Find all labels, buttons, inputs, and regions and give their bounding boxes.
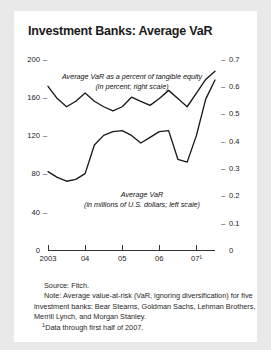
right-axis-ticks: 00.1–0.2–0.3–0.4–0.5–0.6–0.7– xyxy=(221,55,240,255)
right-axis-dash-0.6: – xyxy=(221,82,226,91)
left-axis-tick-80: 80 xyxy=(32,169,40,178)
right-axis-tick-0.7: 0.7 xyxy=(229,55,240,64)
percent-annotation-line2: (in percent; right scale) xyxy=(95,82,168,91)
left-axis-tick-120: 120 xyxy=(27,131,40,140)
usd-annotation-line1: Average VaR xyxy=(120,190,163,199)
x-axis-tick-label-4: 07¹ xyxy=(191,254,202,263)
right-axis-dash-0.5: – xyxy=(221,109,226,118)
footnote-text: Data through first half of 2007. xyxy=(45,324,143,333)
x-axis-ticks: 200304050607¹ xyxy=(40,245,203,263)
left-axis-dash-80: – xyxy=(43,169,48,178)
right-axis-dash-0.2: – xyxy=(221,191,226,200)
note-body: Note: Average value-at-risk (VaR, ignori… xyxy=(34,291,258,322)
note-footnote: 1Data through first half of 2007. xyxy=(34,322,258,334)
right-axis-tick-0.5: 0.5 xyxy=(229,109,240,118)
right-axis-tick-0.3: 0.3 xyxy=(229,164,240,173)
usd-annotation-line2: (in millions of U.S. dollars; left scale… xyxy=(84,200,200,209)
right-axis-dash-0.3: – xyxy=(221,164,226,173)
series-line-average-var-usd xyxy=(48,80,215,181)
left-axis-dash-200: – xyxy=(43,55,48,64)
left-axis-tick-160: 160 xyxy=(27,93,40,102)
right-axis-tick-0.1: 0.1 xyxy=(229,219,240,228)
chart-plot-area: 040–80–120–160–200– 00.1–0.2–0.3–0.4–0.5… xyxy=(14,37,257,265)
right-axis-dash-0.1: – xyxy=(221,219,226,228)
chart-svg: 040–80–120–160–200– 00.1–0.2–0.3–0.4–0.5… xyxy=(14,37,257,265)
chart-card: Investment Banks: Average VaR 040–80–120… xyxy=(14,11,257,342)
x-axis-tick-label-3: 06 xyxy=(155,254,163,263)
right-axis-tick-0.4: 0.4 xyxy=(229,137,240,146)
note-source: Source: Fitch. xyxy=(34,281,258,291)
right-axis-tick-0.6: 0.6 xyxy=(229,82,240,91)
left-axis-dash-160: – xyxy=(43,93,48,102)
right-axis-tick-0: 0 xyxy=(229,246,233,255)
chart-notes: Source: Fitch. Note: Average value-at-ri… xyxy=(34,281,258,334)
percent-annotation-line1: Average VaR as a percent of tangible equ… xyxy=(61,72,203,81)
page-title: Investment Banks: Average VaR xyxy=(28,24,212,38)
left-axis-tick-40: 40 xyxy=(32,208,40,217)
left-axis-dash-40: – xyxy=(43,208,48,217)
x-axis-tick-label-1: 04 xyxy=(81,254,89,263)
right-axis-dash-0.4: – xyxy=(221,137,226,146)
x-axis-tick-label-0: 2003 xyxy=(40,254,57,263)
left-axis-dash-120: – xyxy=(43,131,48,140)
x-axis-tick-label-2: 05 xyxy=(118,254,126,263)
left-axis-ticks: 040–80–120–160–200– xyxy=(27,55,48,255)
right-axis-dash-0.7: – xyxy=(221,55,226,64)
right-axis-tick-0.2: 0.2 xyxy=(229,191,240,200)
left-axis-tick-200: 200 xyxy=(27,55,40,64)
